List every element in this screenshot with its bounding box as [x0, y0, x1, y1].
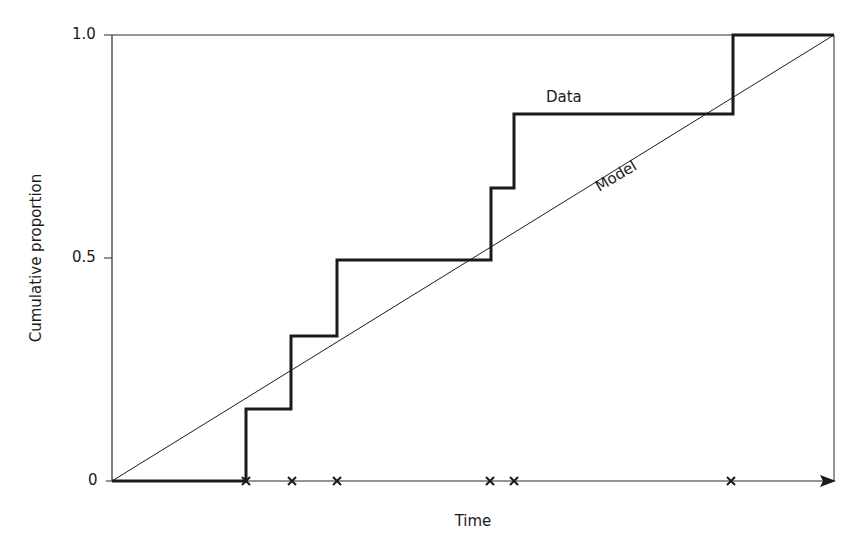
y-tick-label-0: 0 — [88, 471, 98, 489]
y-tick-label-1: 1.0 — [72, 25, 96, 43]
model-line — [112, 35, 834, 481]
data-series-label: Data — [546, 88, 582, 106]
series-model — [112, 35, 834, 481]
y-tick-label-05: 0.5 — [72, 248, 96, 266]
chart-canvas — [0, 0, 862, 551]
y-axis-title: Cumulative proportion — [27, 174, 45, 343]
x-axis-title: Time — [455, 512, 492, 530]
